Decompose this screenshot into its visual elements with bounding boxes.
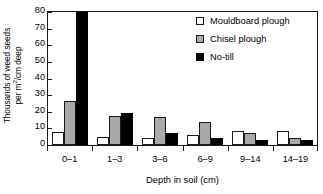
x-category-label: 1–3 [92,153,137,167]
bar[interactable] [289,138,301,145]
x-axis-category-labels: 0–11–33–66–99–1414–19 [47,153,318,167]
bar[interactable] [166,133,178,145]
gray-square-swatch [196,35,204,43]
legend-item[interactable]: No-till [196,48,314,66]
x-tick-mark [228,146,229,151]
x-axis-tick-marks [47,146,318,151]
y-tick-label: 10 [35,123,45,132]
y-axis-title-line1: Thousands of weed seeds [3,27,13,122]
x-tick-mark [183,146,184,151]
y-axis-title: Thousands of weed seeds per m2/cm deep [0,0,26,150]
bar[interactable] [52,132,64,145]
bar-group [93,12,138,145]
y-tick-label: 70 [35,23,45,32]
y-tick-label: 60 [35,40,45,49]
legend-item-label: No-till [210,52,234,62]
x-tick-mark [273,146,274,151]
y-tick-label: 0 [40,139,45,148]
x-tick-mark [137,146,138,151]
y-tick-mark [48,45,52,46]
bar[interactable] [244,133,256,145]
y-axis-title-line2: per m2/cm deep [13,27,24,122]
legend-item-label: Mouldboard plough [210,16,290,26]
y-axis-tick-labels: 01020304050607080 [26,8,47,146]
legend-item-label: Chisel plough [210,34,266,44]
y-tick-mark [48,95,52,96]
y-tick-mark [48,12,52,13]
y-tick-mark [48,128,52,129]
bar[interactable] [301,140,313,145]
x-axis-title: Depth in soil (cm) [47,174,318,185]
y-tick-label: 20 [35,106,45,115]
bar[interactable] [109,116,121,145]
x-category-label: 14–19 [273,153,318,167]
white-square-swatch [196,17,204,25]
y-tick-label: 30 [35,90,45,99]
bar[interactable] [97,137,109,145]
bar-group-bars [48,12,93,145]
bar-group-bars [93,12,138,145]
bar-group-bars [138,12,183,145]
y-axis-title-line2-pre: per m [13,83,23,104]
bar[interactable] [199,122,211,145]
bar-chart-figure: Thousands of weed seeds per m2/cm deep 0… [0,0,323,194]
x-category-label: 0–1 [47,153,92,167]
bar-group [48,12,93,145]
x-category-label: 3–6 [137,153,182,167]
bar[interactable] [211,138,223,145]
bar[interactable] [154,117,166,145]
bar[interactable] [64,101,76,145]
y-tick-label: 40 [35,73,45,82]
y-axis-title-line2-post: /cm deep [13,46,23,80]
y-tick-mark [48,79,52,80]
bar[interactable] [232,131,244,145]
x-tick-mark [47,146,48,151]
y-tick-label: 50 [35,56,45,65]
legend-item[interactable]: Chisel plough [196,30,314,48]
bar[interactable] [142,138,154,145]
x-tick-mark [317,146,318,151]
y-tick-mark [48,62,52,63]
chart-legend: Mouldboard ploughChisel ploughNo-till [196,12,314,66]
y-tick-label: 80 [35,6,45,15]
y-tick-mark [48,29,52,30]
x-category-label: 9–14 [228,153,273,167]
x-category-label: 6–9 [183,153,228,167]
y-tick-mark [48,112,52,113]
legend-item[interactable]: Mouldboard plough [196,12,314,30]
bar[interactable] [76,12,88,145]
black-square-swatch [196,53,204,61]
bar[interactable] [256,140,268,145]
bar[interactable] [277,131,289,145]
bar-group [138,12,183,145]
x-tick-mark [92,146,93,151]
bar[interactable] [121,113,133,145]
bar[interactable] [187,135,199,145]
